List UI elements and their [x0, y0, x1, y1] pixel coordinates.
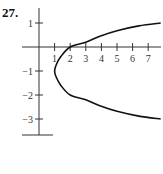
y-tick-label: 1 [28, 18, 33, 29]
y-tick-label: −1 [22, 66, 33, 77]
y-tick-label: −2 [22, 90, 33, 101]
x-tick-label: 5 [115, 53, 120, 64]
x-tick-label: 7 [146, 53, 151, 64]
y-tick-label: −3 [22, 114, 33, 125]
x-ticks: 1234567 [52, 43, 151, 64]
x-tick-label: 6 [130, 53, 135, 64]
x-tick-label: 3 [83, 53, 88, 64]
x-tick-label: 4 [99, 53, 104, 64]
plot-area: 1234567 1−1−2−3 [0, 0, 163, 174]
x-tick-label: 2 [68, 53, 73, 64]
x-tick-label: 1 [52, 53, 57, 64]
y-ticks: 1−1−2−3 [22, 18, 43, 125]
curve-series [55, 23, 161, 119]
